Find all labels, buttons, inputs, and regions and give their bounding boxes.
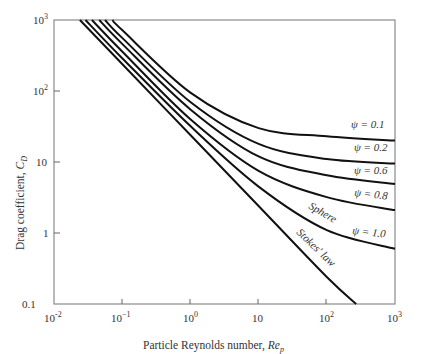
label-psi-0-8: ψ = 0.8 xyxy=(354,186,389,201)
x-axis-ticks xyxy=(122,299,326,304)
curve-stokes-law xyxy=(80,20,356,304)
svg-text:0.1: 0.1 xyxy=(22,298,36,310)
label-psi-0-1: ψ = 0.1 xyxy=(351,118,385,130)
y-axis-ticks xyxy=(54,91,60,233)
svg-text:10: 10 xyxy=(36,156,48,168)
svg-text:10-2: 10-2 xyxy=(44,310,62,324)
svg-text:102: 102 xyxy=(319,310,334,324)
svg-text:100: 100 xyxy=(183,310,198,324)
x-axis-tick-labels: 10-2 10−1 100 10 102 103 xyxy=(44,310,402,324)
svg-text:102: 102 xyxy=(33,83,48,97)
curve-0-6 xyxy=(99,20,395,184)
label-sphere: Sphere xyxy=(307,199,339,225)
curve-0-8 xyxy=(92,20,395,210)
label-psi-0-6: ψ = 0.6 xyxy=(354,164,388,176)
svg-text:103: 103 xyxy=(33,12,48,26)
x-axis-title: Particle Reynolds number, Rep xyxy=(143,339,284,354)
drag-coefficient-chart: 10-2 10−1 100 10 102 103 0.1 1 10 102 10… xyxy=(0,0,424,354)
svg-text:103: 103 xyxy=(387,310,402,324)
y-axis-title: Drag coefficient, CD xyxy=(14,156,29,250)
curve-group xyxy=(80,20,395,304)
svg-text:10−1: 10−1 xyxy=(111,310,131,324)
label-psi-1-0: ψ = 1.0 xyxy=(352,224,387,239)
svg-text:10: 10 xyxy=(252,312,264,324)
label-psi-0-2: ψ = 0.2 xyxy=(354,141,388,153)
svg-text:1: 1 xyxy=(43,227,49,239)
plot-frame xyxy=(54,20,395,304)
